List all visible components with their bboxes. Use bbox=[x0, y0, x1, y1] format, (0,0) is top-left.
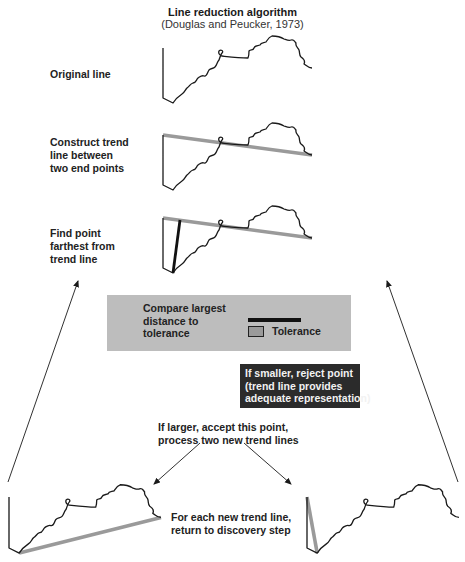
farthest-distance-line bbox=[173, 220, 180, 273]
split-arrow-left bbox=[154, 443, 200, 484]
compare-text-line: Compare largest bbox=[143, 302, 226, 315]
left-subproblem-figure bbox=[9, 485, 161, 553]
accept-text-line: If larger, accept this point, bbox=[158, 421, 299, 434]
compare-text-line: distance to bbox=[143, 315, 226, 328]
return-arrow-right bbox=[387, 281, 458, 482]
diagram-drawing bbox=[0, 0, 465, 562]
trend-line bbox=[307, 497, 317, 553]
original-line-figure bbox=[163, 36, 312, 103]
distance-legend-bar bbox=[248, 318, 301, 322]
right-subproblem-figure bbox=[307, 485, 459, 553]
trend-line bbox=[19, 517, 161, 553]
split-arrow-right bbox=[244, 443, 291, 484]
recurse-text: For each new trend line, return to disco… bbox=[171, 511, 291, 537]
recurse-text-line: For each new trend line, bbox=[171, 511, 291, 524]
accept-text: If larger, accept this point, process tw… bbox=[158, 421, 299, 447]
reject-text-line: If smaller, reject point bbox=[245, 367, 370, 380]
accept-text-line: process two new trend lines bbox=[158, 434, 299, 447]
compare-text-line: tolerance bbox=[143, 327, 226, 340]
compare-box-text: Compare largest distance to tolerance bbox=[143, 302, 226, 340]
reject-text-line: adequate representation) bbox=[245, 392, 370, 405]
trend-line-figure bbox=[163, 123, 312, 190]
recurse-text-line: return to discovery step bbox=[171, 524, 291, 537]
tolerance-legend-swatch bbox=[248, 326, 264, 337]
reject-box-text: If smaller, reject point (trend line pro… bbox=[245, 367, 370, 405]
return-arrow-left bbox=[8, 281, 78, 482]
tolerance-legend-label: Tolerance bbox=[272, 325, 321, 337]
reject-text-line: (trend line provides bbox=[245, 380, 370, 393]
farthest-point-figure bbox=[163, 206, 312, 273]
